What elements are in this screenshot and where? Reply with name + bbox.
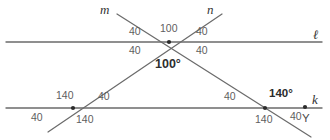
angle-bl-upper-right: 40 xyxy=(98,91,110,102)
angle-bl-lower-left: 40 xyxy=(31,112,43,123)
line-label-l: ℓ xyxy=(313,28,318,41)
geometry-diagram: 40100404040100°140404014040140°14040 Y ℓ… xyxy=(0,0,330,140)
left-bottom-intersection-dot xyxy=(71,106,75,110)
angle-bl-lower-right: 140 xyxy=(76,114,94,125)
line-label-m: m xyxy=(100,3,109,16)
angle-br-lower-right: 40 xyxy=(290,111,302,122)
angle-br-lower-left: 140 xyxy=(255,114,273,125)
line-m xyxy=(117,14,311,137)
line-label-k: k xyxy=(312,93,318,106)
right-bottom-intersection-dot xyxy=(263,106,267,110)
angle-br-upper-right: 140° xyxy=(269,88,293,100)
line-label-n: n xyxy=(207,3,214,16)
point-label-Y: Y xyxy=(302,113,310,125)
angle-top-upper-mid: 100 xyxy=(160,23,178,34)
angle-top-lower-left: 40 xyxy=(129,45,141,56)
point-Y-dot xyxy=(303,105,307,109)
angle-top-upper-left: 40 xyxy=(129,26,141,37)
angle-bl-upper-left: 140 xyxy=(56,90,74,101)
angle-top-lower-right: 40 xyxy=(196,45,208,56)
angle-center-main: 100° xyxy=(155,58,181,71)
angle-br-upper-left: 40 xyxy=(224,91,236,102)
angle-top-upper-right: 40 xyxy=(196,26,208,37)
top-intersection-dot xyxy=(167,40,171,44)
